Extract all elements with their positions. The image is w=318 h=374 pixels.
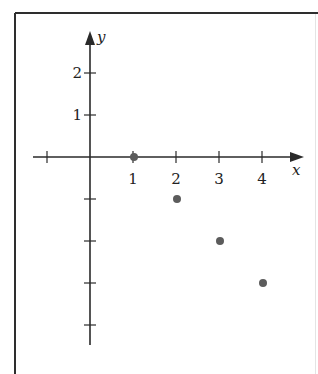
y-axis-arrow-icon (85, 31, 95, 45)
x-tick-label: 3 (214, 170, 224, 188)
data-points (130, 153, 267, 287)
y-tick-label: 2 (72, 64, 82, 82)
y-axis-label: y (96, 28, 106, 46)
chart-frame (15, 13, 318, 374)
x-tick-label: 1 (128, 170, 138, 188)
y-axis: y (85, 28, 106, 345)
x-axis-label: x (292, 161, 301, 179)
data-point (130, 153, 138, 161)
y-tick-label: 1 (72, 106, 82, 124)
x-tick-label: 4 (257, 170, 267, 188)
data-point (173, 195, 181, 203)
data-point (259, 279, 267, 287)
scatter-chart: x y 1234 21 (0, 0, 318, 374)
x-tick-label: 2 (171, 170, 181, 188)
y-ticks: 21 (72, 64, 96, 325)
data-point (216, 237, 224, 245)
